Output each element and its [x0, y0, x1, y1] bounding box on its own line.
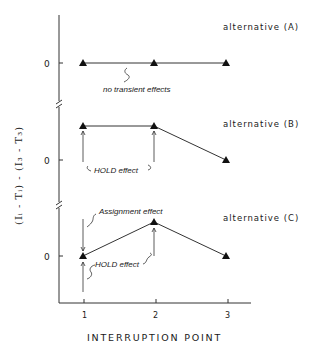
x-tick-2: 2	[153, 311, 158, 320]
panel-c-title: alternative (C)	[223, 213, 299, 223]
panel-b: alternative (B) HOLD effect	[79, 119, 299, 175]
zero-label-c: 0	[44, 252, 50, 262]
x-tick-3: 3	[225, 311, 230, 320]
annotation-hold-effect-c: HOLD effect	[95, 260, 140, 269]
y-axis	[56, 15, 63, 303]
series-line-b	[83, 126, 226, 160]
hold-effect-arrows-b	[81, 131, 156, 171]
panel-a: alternative (A) no transient effects	[79, 22, 299, 94]
squiggle-arrow-icon	[124, 68, 129, 82]
panel-c: alternative (C) Assignment effect HOLD e…	[79, 207, 299, 292]
effect-arrows-c	[81, 214, 156, 292]
panel-a-title: alternative (A)	[223, 22, 299, 32]
data-markers-b	[79, 122, 230, 163]
series-line-c	[83, 222, 226, 256]
annotation-no-transient: no transient effects	[103, 85, 171, 94]
zero-label-a: 0	[44, 59, 50, 69]
annotation-hold-effect-b: HOLD effect	[94, 166, 139, 175]
x-axis-label: INTERRUPTION POINT	[87, 332, 222, 343]
zero-label-b: 0	[44, 156, 50, 166]
annotation-assignment-effect: Assignment effect	[98, 207, 163, 216]
x-tick-1: 1	[82, 311, 87, 320]
x-axis	[59, 299, 251, 303]
panel-b-title: alternative (B)	[223, 119, 299, 129]
interruption-diagram: 1 2 3 INTERRUPTION POINT 0 0 0 (Iᵢ - Tᵢ)…	[0, 0, 313, 349]
y-axis-label: (Iᵢ - Tᵢ) - (I₃ - T₃)	[13, 126, 24, 225]
data-markers-c	[79, 218, 230, 259]
